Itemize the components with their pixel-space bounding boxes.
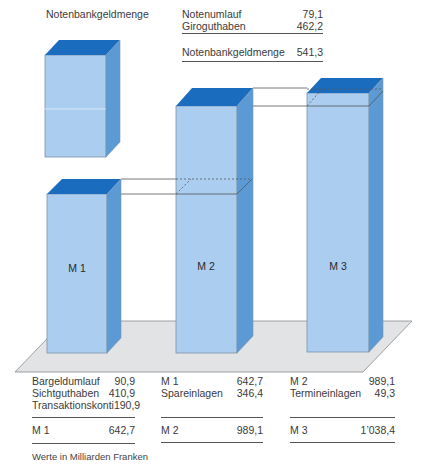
bar-m2: M 2	[176, 88, 253, 353]
composition-row: Notenumlauf 79,1	[182, 8, 323, 20]
composition-total-row: Notenbankgeldmenge 541,3	[182, 46, 323, 58]
total-label: Notenbankgeldmenge	[182, 46, 285, 58]
row-value: 642,7	[237, 375, 263, 387]
row-label: Termineinlagen	[290, 387, 361, 399]
divider	[32, 443, 135, 444]
row-value: 79,1	[303, 8, 323, 20]
bar-label-m1: M 1	[68, 262, 86, 274]
row-label: M 2	[290, 375, 308, 387]
divider	[290, 417, 395, 418]
row-value: 462,2	[297, 20, 323, 32]
total-value: 642,7	[109, 424, 135, 436]
table-m1: Bargeldumlauf 90,9 Sichtguthaben 410,9 T…	[32, 375, 135, 411]
table-row: Bargeldumlauf 90,9	[32, 375, 135, 387]
bar-m3: M 3	[307, 78, 383, 352]
units-footnote: Werte in Milliarden Franken	[32, 451, 148, 462]
table-m2: M 1 642,7 Spareinlagen 346,4	[161, 375, 263, 399]
row-label: Sichtguthaben	[32, 387, 99, 399]
total-label: M 3	[290, 424, 308, 436]
row-value: 90,9	[115, 375, 135, 387]
table-m2-total: M 2 989,1	[161, 424, 263, 436]
total-value: 1’038,4	[361, 424, 395, 436]
bar-label-m2: M 2	[197, 260, 215, 272]
notenbankgeldmenge-title: Notenbankgeldmenge	[46, 8, 149, 20]
table-row: Spareinlagen 346,4	[161, 387, 263, 399]
divider	[161, 417, 263, 418]
row-value: 49,3	[375, 387, 395, 399]
total-label: M 1	[32, 424, 50, 436]
bar-m1: M 1	[47, 179, 121, 353]
table-m3-total: M 3 1’038,4	[290, 424, 395, 436]
table-row: M 1 642,7	[161, 375, 263, 387]
total-value: 989,1	[237, 424, 263, 436]
composition-row: Giroguthaben 462,2	[182, 20, 323, 32]
bar-label-m3: M 3	[329, 260, 347, 272]
divider	[182, 33, 323, 34]
row-label: Transaktionskonti	[32, 399, 114, 411]
row-value: 410,9	[109, 387, 135, 399]
total-label: M 2	[161, 424, 179, 436]
divider	[161, 442, 263, 443]
divider	[290, 442, 395, 443]
row-label: M 1	[161, 375, 179, 387]
table-m3: M 2 989,1 Termineinlagen 49,3	[290, 375, 395, 399]
divider	[32, 417, 135, 418]
row-label: Notenumlauf	[182, 8, 242, 20]
table-row: Sichtguthaben 410,9	[32, 387, 135, 399]
row-label: Spareinlagen	[161, 387, 223, 399]
divider	[182, 61, 323, 62]
total-value: 541,3	[297, 46, 323, 58]
row-label: Giroguthaben	[182, 20, 246, 32]
table-row: Transaktionskonti 190,9	[32, 399, 135, 411]
table-row: Termineinlagen 49,3	[290, 387, 395, 399]
composition-table: Notenumlauf 79,1 Giroguthaben 462,2	[182, 8, 323, 32]
row-value: 346,4	[237, 387, 263, 399]
row-value: 989,1	[369, 375, 395, 387]
bar-notenbankgeldmenge	[45, 40, 120, 157]
table-row: M 2 989,1	[290, 375, 395, 387]
row-value: 190,9	[114, 399, 140, 411]
row-label: Bargeldumlauf	[32, 375, 100, 387]
table-m1-total: M 1 642,7	[32, 424, 135, 436]
